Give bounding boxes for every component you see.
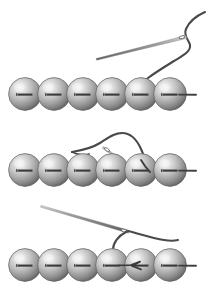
round-bead-icon xyxy=(38,78,71,111)
round-bead-icon xyxy=(9,78,42,111)
round-bead-icon xyxy=(9,249,42,282)
round-bead-icon xyxy=(9,154,42,187)
beading-diagram-canvas xyxy=(0,0,209,290)
canvas-background xyxy=(0,0,209,290)
round-bead-icon xyxy=(96,78,129,111)
round-bead-icon xyxy=(38,154,71,187)
round-bead-icon xyxy=(125,154,158,187)
round-bead-icon xyxy=(67,249,100,282)
round-bead-icon xyxy=(67,154,100,187)
round-bead-icon xyxy=(96,154,129,187)
round-bead-icon xyxy=(67,78,100,111)
beading-diagram-root: Needle and thread approach the bead row … xyxy=(0,0,209,290)
round-bead-icon xyxy=(38,249,71,282)
round-bead-icon xyxy=(125,78,158,111)
